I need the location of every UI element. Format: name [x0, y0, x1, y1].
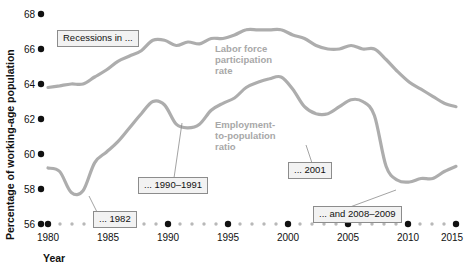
lfp-label-line2: participation — [215, 54, 272, 65]
callout-2008-2009: ... and 2008–2009 — [313, 206, 402, 223]
leader-2001 — [306, 145, 312, 163]
callout-1982: ... 1982 — [93, 211, 137, 228]
leader-1990 — [174, 123, 182, 178]
epr-label-line2: to-population — [215, 130, 276, 141]
y-axis-title: Percentage of working-age population — [4, 49, 16, 240]
leader-1982 — [89, 196, 97, 212]
y-tick-64: 64 — [24, 79, 36, 90]
x-tick-dot-1995 — [225, 221, 231, 227]
y-tick-62: 62 — [24, 114, 36, 125]
x-tick-label-1995: 1995 — [217, 232, 240, 243]
callout-1990-1991: ... 1990–1991 — [138, 177, 208, 194]
y-tick-dot-62 — [38, 116, 44, 122]
y-tick-56: 56 — [24, 219, 36, 230]
epr-label-line3: ratio — [215, 141, 236, 152]
y-tick-60: 60 — [24, 149, 36, 160]
y-tick-68: 68 — [24, 9, 36, 20]
callout-recessions: Recessions in ... — [57, 30, 139, 47]
y-tick-dot-68 — [38, 11, 44, 17]
callout-2001: ... 2001 — [288, 162, 332, 179]
epr-label-line1: Employment- — [215, 119, 275, 130]
x-axis-title: Year — [43, 252, 65, 264]
lfp-label-line3: rate — [215, 65, 232, 76]
y-tick-dot-60 — [38, 151, 44, 157]
x-tick-dot-2010 — [405, 221, 411, 227]
y-tick-dot-56 — [38, 221, 44, 227]
x-tick-dot-1990 — [165, 221, 171, 227]
x-tick-label-1985: 1985 — [97, 232, 120, 243]
leader-2008 — [350, 190, 396, 207]
x-tick-label-1990: 1990 — [157, 232, 180, 243]
x-tick-label-2005: 2005 — [337, 232, 360, 243]
chart-container: Percentage of working-age population 68 … — [0, 0, 464, 273]
x-tick-dot-1980 — [45, 221, 51, 227]
x-tick-label-1980: 1980 — [37, 232, 60, 243]
lfp-label-line1: Labor force — [215, 43, 267, 54]
y-tick-66: 66 — [24, 44, 36, 55]
x-tick-dot-2000 — [285, 221, 291, 227]
x-tick-label-2000: 2000 — [277, 232, 300, 243]
y-tick-dot-58 — [38, 186, 44, 192]
y-tick-dot-64 — [38, 81, 44, 87]
x-tick-label-2010: 2010 — [397, 232, 420, 243]
y-tick-58: 58 — [24, 184, 36, 195]
x-tick-label-2015: 2015 — [441, 232, 464, 243]
x-tick-dot-2015 — [453, 221, 459, 227]
y-tick-dot-66 — [38, 46, 44, 52]
